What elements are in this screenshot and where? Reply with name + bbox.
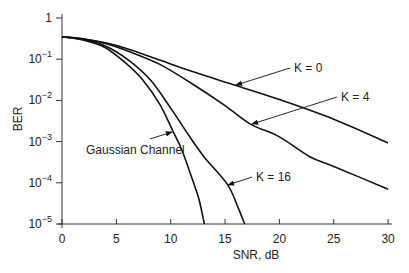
y-tick-label: 1 (45, 11, 52, 25)
x-tick-label: 25 (327, 232, 341, 246)
annotations: K = 0K = 4K = 16Gaussian Channel (86, 61, 370, 185)
annotation-label: K = 4 (341, 90, 370, 104)
annotation-arrow (236, 68, 290, 85)
x-tick-label: 10 (164, 232, 178, 246)
x-tick-label: 0 (59, 232, 66, 246)
annotation-label: K = 0 (294, 61, 323, 75)
y-tick-label: 10−2 (28, 90, 52, 107)
annotation-arrow (228, 177, 252, 185)
curves (62, 37, 388, 224)
y-axis-label: BER (11, 106, 25, 131)
annotation-arrow (150, 132, 172, 139)
curve-k-4 (62, 37, 388, 189)
curve-k-16 (62, 37, 245, 224)
annotation-arrow (252, 97, 337, 124)
x-tick-label: 30 (381, 232, 395, 246)
x-tick-label: 15 (218, 232, 232, 246)
y-tick-label: 10−3 (28, 132, 52, 149)
y-tick-label: 10−5 (28, 214, 52, 231)
x-tick-label: 5 (113, 232, 120, 246)
ber-vs-snr-chart: 051015202530110−110−210−310−410−5 BER SN… (0, 0, 409, 273)
annotation-label: K = 16 (256, 170, 291, 184)
x-tick-label: 20 (273, 232, 287, 246)
axes (58, 14, 392, 228)
y-tick-label: 10−4 (28, 173, 52, 190)
tick-labels: 051015202530110−110−210−310−410−5 (28, 11, 395, 246)
annotation-label: Gaussian Channel (86, 143, 185, 157)
curve-k-0 (62, 37, 388, 143)
x-axis-label: SNR, dB (233, 248, 280, 262)
y-tick-label: 10−1 (28, 49, 52, 66)
